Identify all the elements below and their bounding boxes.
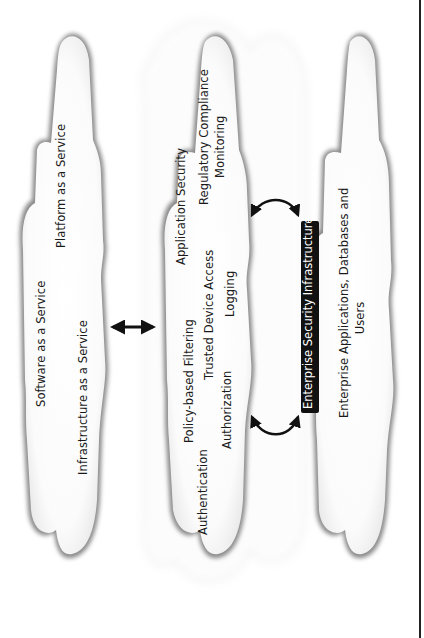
cloud-services-cloud <box>20 34 109 559</box>
text-trusted-device-access: Trusted Device Access <box>204 250 216 380</box>
enterprise-line-1: Enterprise Applications, Databases and <box>339 218 351 418</box>
enterprise-line-2: Users <box>355 218 367 418</box>
text-policy-based-filtering: Policy-based Filtering <box>184 319 196 443</box>
text-authorization: Authorization <box>222 371 234 449</box>
enterprise-security-infrastructure-label: Enterprise Security Infrastructure <box>301 221 319 413</box>
text-application-security: Application Security <box>176 148 188 265</box>
text-authentication: Authentication <box>198 449 210 535</box>
text-infrastructure-as-a-service: Infrastructure as a Service <box>78 320 90 475</box>
text-regulatory-compliance: Regulatory Compliance <box>199 69 211 205</box>
text-enterprise-applications: Enterprise Applications, Databases and U… <box>339 218 366 418</box>
frame-border-right <box>419 0 421 638</box>
text-platform-as-a-service: Platform as a Service <box>56 124 68 248</box>
text-monitoring: Monitoring <box>215 116 227 179</box>
text-software-as-a-service: Software as a Service <box>36 281 48 407</box>
label-box-text: Enterprise Security Infrastructure <box>303 217 315 409</box>
diagram-canvas: Platform as a Service Software as a Serv… <box>0 0 424 638</box>
text-logging: Logging <box>225 271 237 317</box>
